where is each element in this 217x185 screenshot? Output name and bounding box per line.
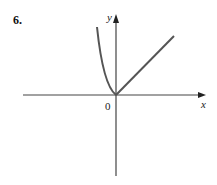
y-axis-label: y (107, 11, 112, 23)
origin-label: 0 (105, 100, 111, 112)
right-branch-line (116, 36, 174, 95)
left-branch-curve (97, 27, 116, 95)
graph-figure: 6. y x 0 (0, 0, 217, 185)
y-axis-arrow-icon (113, 14, 119, 23)
x-axis-label: x (201, 98, 206, 110)
graph-canvas (0, 0, 217, 185)
